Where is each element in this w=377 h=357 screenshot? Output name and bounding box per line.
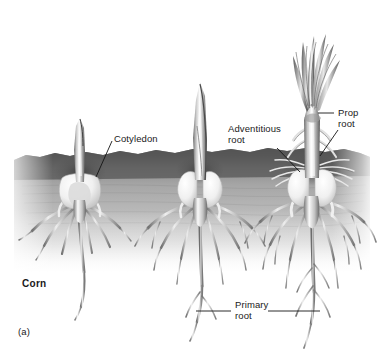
label-cotyledon: Cotyledon	[114, 134, 158, 145]
label-adventitious-root: Adventitious root	[228, 124, 281, 145]
label-primary-root: Primary root	[235, 300, 268, 321]
label-plant-name: Corn	[22, 279, 47, 290]
seedling-illustration	[0, 0, 377, 357]
corn-seedling-figure: Cotyledon Adventitious root Prop root Pr…	[0, 0, 377, 357]
label-prop-root: Prop root	[338, 108, 358, 129]
panel-label: (a)	[18, 327, 30, 338]
